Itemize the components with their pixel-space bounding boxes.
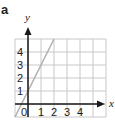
y-tick-label: 2 [17,72,23,84]
y-axis-arrow-icon [25,27,32,35]
x-tick-labels: 01234 [21,106,83,118]
x-tick-label: 3 [64,106,70,118]
y-axis-label: y [24,11,30,23]
y-tick-label: 4 [17,46,23,58]
x-tick-label: 2 [51,106,57,118]
x-axis-arrow-icon [97,101,105,108]
y-tick-labels: 1234 [17,46,23,97]
x-axis-label: x [108,97,114,109]
y-tick-label: 3 [17,59,23,71]
x-tick-label: 0 [21,106,27,118]
x-tick-label: 4 [77,106,83,118]
y-tick-label: 1 [17,85,23,97]
x-tick-label: 1 [38,106,44,118]
line-graph: x y 01234 1234 [0,0,115,126]
